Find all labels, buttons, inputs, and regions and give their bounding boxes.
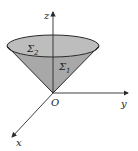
cone-diagram: z y x O Σ2 Σ1 xyxy=(0,0,138,151)
origin-label: O xyxy=(51,97,59,108)
z-axis-label: z xyxy=(43,10,50,21)
x-axis-label: x xyxy=(16,137,22,148)
y-axis-label: y xyxy=(120,98,127,109)
diagram-svg: z y x O Σ2 Σ1 xyxy=(0,0,138,151)
x-axis xyxy=(12,93,53,137)
